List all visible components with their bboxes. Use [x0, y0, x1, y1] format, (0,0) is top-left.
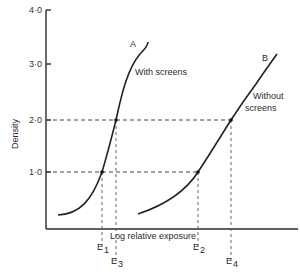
y-tick-label-2: 2·0	[29, 115, 42, 125]
y-tick-label-1: 1·0	[29, 167, 42, 177]
characteristic-curve-chart: 4·0 3·0 2·0 1·0 Density A With screens B…	[0, 0, 300, 276]
svg-text:1: 1	[104, 245, 109, 255]
svg-text:E: E	[193, 242, 199, 252]
curve-b-description-line2: screens	[245, 103, 277, 113]
marker-e4: E 4	[226, 256, 238, 269]
svg-text:E: E	[226, 256, 232, 266]
e4-point	[229, 118, 233, 122]
svg-text:E: E	[111, 256, 117, 266]
curve-b-without-screens	[138, 54, 277, 214]
svg-text:4: 4	[233, 259, 238, 269]
svg-text:2: 2	[200, 245, 205, 255]
e2-point	[196, 170, 200, 174]
marker-e2: E 2	[193, 242, 205, 255]
e3-point	[114, 118, 118, 122]
svg-text:3: 3	[118, 259, 123, 269]
y-axis-label: Density	[10, 118, 20, 149]
e1-point	[100, 170, 104, 174]
svg-text:E: E	[97, 242, 103, 252]
curve-b-description-line1: Without	[253, 91, 284, 101]
y-tick-label-3: 3·0	[29, 59, 42, 69]
marker-e1: E 1	[97, 242, 109, 255]
y-tick-label-4: 4·0	[29, 5, 42, 15]
x-axis-label: Log relative exposure	[110, 231, 196, 241]
marker-e3: E 3	[111, 256, 123, 269]
curve-b-label: B	[262, 53, 268, 63]
curve-a-description: With screens	[135, 67, 188, 77]
curve-a-label: A	[130, 39, 136, 49]
